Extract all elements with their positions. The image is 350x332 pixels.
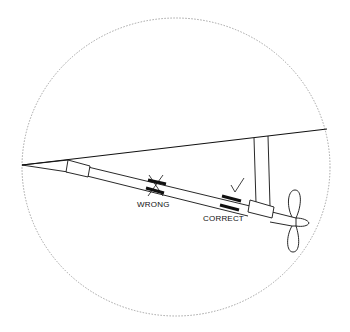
diagram-canvas: WRONG CORRECT	[0, 0, 350, 332]
check-mark-icon	[231, 178, 244, 192]
stern-tube-bearing	[66, 160, 90, 177]
shaft-strut	[254, 136, 270, 206]
diagram-svg	[0, 0, 350, 332]
correct-coupling	[220, 178, 244, 210]
wrong-label: WRONG	[137, 200, 170, 209]
propeller-icon	[288, 190, 309, 252]
correct-label: CORRECT	[203, 214, 244, 223]
propeller-shaft	[22, 160, 292, 226]
